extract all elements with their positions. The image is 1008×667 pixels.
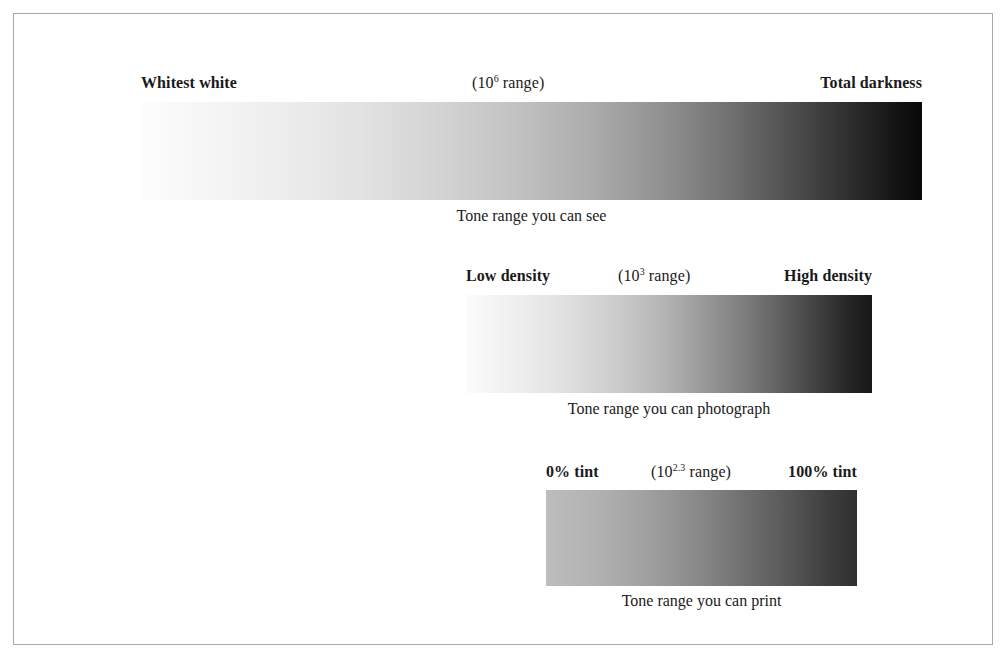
label-row-print: 0% tint (102.3 range) 100% tint: [546, 463, 857, 483]
label-range-photograph: (103 range): [618, 267, 690, 285]
range-exponent-print: 2.3: [673, 462, 686, 473]
caption-tone-range-photograph: Tone range you can photograph: [466, 400, 872, 418]
label-total-darkness: Total darkness: [820, 74, 922, 92]
range-prefix-photograph: (10: [618, 267, 640, 284]
label-row-see: Whitest white (106 range) Total darkness: [141, 74, 922, 94]
gradient-bar-see: [141, 102, 922, 200]
gradient-bar-photograph: [466, 295, 872, 393]
label-whitest-white: Whitest white: [141, 74, 237, 92]
figure-frame: Whitest white (106 range) Total darkness…: [13, 13, 993, 645]
caption-tone-range-see: Tone range you can see: [141, 207, 922, 225]
range-prefix-see: (10: [472, 74, 494, 91]
range-suffix-print: range): [685, 463, 731, 480]
label-high-density: High density: [784, 267, 872, 285]
range-suffix-see: range): [499, 74, 545, 91]
label-low-density: Low density: [466, 267, 550, 285]
label-range-print: (102.3 range): [651, 463, 731, 481]
gradient-bar-print: [546, 490, 857, 586]
label-hundred-percent-tint: 100% tint: [788, 463, 857, 481]
caption-tone-range-print: Tone range you can print: [546, 592, 857, 610]
range-prefix-print: (10: [651, 463, 673, 480]
range-suffix-photograph: range): [645, 267, 691, 284]
label-zero-percent-tint: 0% tint: [546, 463, 599, 481]
label-row-photograph: Low density (103 range) High density: [466, 267, 872, 287]
label-range-see: (106 range): [472, 74, 544, 92]
